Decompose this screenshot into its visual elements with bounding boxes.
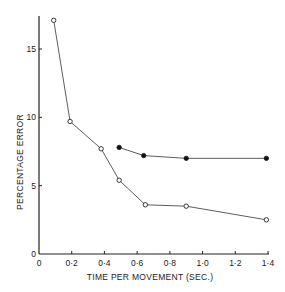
x-tick-label: 0·4: [98, 258, 111, 268]
x-tick-label: 0·8: [164, 258, 177, 268]
y-tick-label: 5: [31, 181, 36, 191]
x-tick-label: 1·4: [262, 258, 275, 268]
x-tick-label: 1·0: [196, 258, 209, 268]
open-circle-marker: [184, 204, 188, 208]
y-tick-label: 15: [27, 44, 37, 54]
series-filled-circles: [117, 145, 269, 160]
open-circle-marker: [99, 147, 103, 151]
open-circle-marker: [143, 203, 147, 207]
x-axis-label: TIME PER MOVEMENT (SEC.): [87, 272, 214, 282]
y-axis-label: PERCENTAGE ERROR: [15, 114, 25, 210]
series-open-circles: [52, 18, 269, 222]
x-tick-label: 1·2: [229, 258, 242, 268]
open-circle-marker: [52, 18, 56, 22]
open-circle-marker: [117, 178, 121, 182]
series-line: [119, 147, 266, 158]
x-tick-label: 0·6: [131, 258, 144, 268]
y-tick-label: 10: [27, 112, 37, 122]
open-circle-marker: [68, 119, 72, 123]
filled-circle-marker: [141, 153, 145, 157]
x-tick-label: 0·2: [66, 258, 79, 268]
y-ticks: 051015: [27, 44, 42, 259]
series-layer: [52, 18, 269, 222]
filled-circle-marker: [184, 156, 188, 160]
filled-circle-marker: [264, 156, 268, 160]
y-tick-label: 0: [31, 249, 36, 259]
open-circle-marker: [264, 218, 268, 222]
x-tick-label: 0: [37, 258, 42, 268]
line-chart: 00·20·40·60·81·01·21·4 051015 TIME PER M…: [0, 0, 285, 292]
filled-circle-marker: [117, 145, 121, 149]
axes: [39, 16, 269, 254]
series-line: [54, 20, 267, 220]
